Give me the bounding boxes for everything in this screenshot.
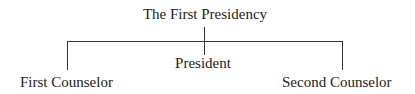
connector-right-drop — [342, 41, 343, 70]
node-first-counselor: First Counselor — [20, 74, 113, 91]
connector-horizontal — [67, 41, 343, 42]
chart-title-node: The First Presidency — [140, 6, 270, 23]
node-president: President — [160, 55, 246, 72]
node-second-counselor: Second Counselor — [282, 74, 392, 91]
connector-left-drop — [67, 41, 68, 70]
